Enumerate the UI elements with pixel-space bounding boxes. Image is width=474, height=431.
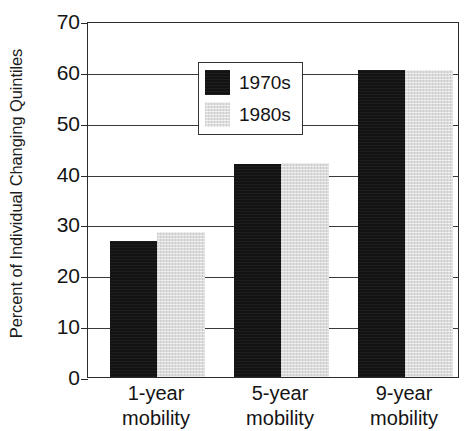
bar-1970s-1-year mobility	[110, 241, 158, 377]
y-tick-label-70: 70	[34, 11, 80, 32]
y-tick-label-50: 50	[34, 113, 80, 134]
x-category-label-2-line-2: mobility	[329, 406, 474, 431]
y-axis-tick-labels: 010203040506070	[34, 0, 80, 431]
tickmark-70	[81, 23, 88, 24]
plot-area: 1970s 1980s	[87, 22, 459, 378]
y-tick-label-0: 0	[34, 367, 80, 388]
bar-1980s-1-year mobility	[157, 232, 205, 377]
legend-swatch-1970s	[205, 70, 230, 95]
bar-chart: Percent of Individual Changing Quintiles…	[0, 0, 474, 431]
y-tick-label-60: 60	[34, 62, 80, 83]
tickmark-10	[81, 328, 88, 329]
y-tick-label-10: 10	[34, 316, 80, 337]
tickmark-60	[81, 74, 88, 75]
bar-1970s-5-year mobility	[234, 164, 282, 377]
bar-1980s-9-year mobility	[405, 70, 453, 377]
tickmark-0	[81, 379, 88, 380]
legend-item-series-1: 1980s	[205, 99, 291, 129]
bar-1970s-9-year mobility	[358, 70, 406, 377]
y-axis-title-text: Percent of Individual Changing Quintiles	[8, 48, 27, 338]
bar-1980s-5-year mobility	[281, 163, 329, 377]
legend-label-1970s: 1970s	[239, 73, 291, 92]
y-tick-label-40: 40	[34, 164, 80, 185]
y-axis-title: Percent of Individual Changing Quintiles	[0, 0, 34, 386]
tickmark-40	[81, 176, 88, 177]
legend-label-1980s: 1980s	[239, 105, 291, 124]
x-axis-category-labels: 1-yearmobility5-yearmobility9-yearmobili…	[87, 381, 459, 431]
x-category-label-2-line-1: 9-year	[329, 381, 474, 406]
legend-item-series-0: 1970s	[205, 67, 291, 97]
tickmark-30	[81, 226, 88, 227]
legend-swatch-1980s	[205, 102, 230, 127]
tickmark-50	[81, 125, 88, 126]
legend: 1970s 1980s	[198, 62, 303, 135]
x-category-label-2: 9-yearmobility	[329, 381, 474, 431]
tickmark-20	[81, 277, 88, 278]
y-tick-label-20: 20	[34, 265, 80, 286]
y-tick-label-30: 30	[34, 214, 80, 235]
